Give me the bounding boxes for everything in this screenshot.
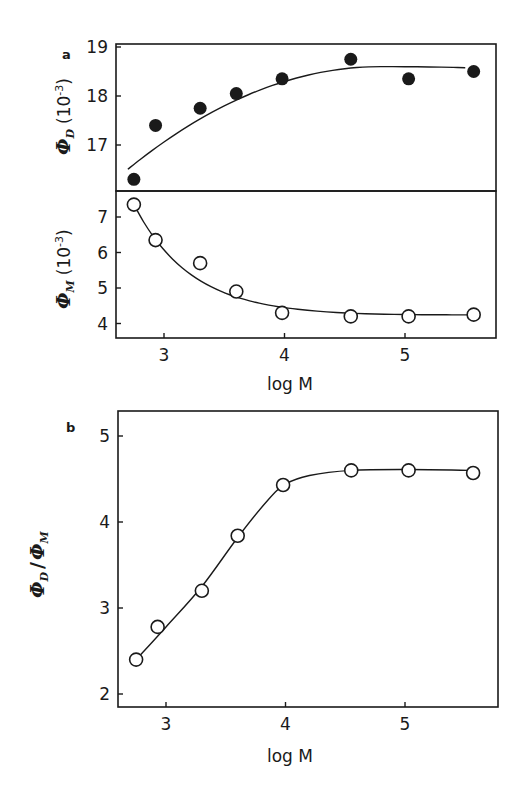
svg-text:ΦM(10-3): ΦM(10-3) xyxy=(52,229,77,309)
panel-label-b: b xyxy=(66,420,75,435)
panel-a-top: 171819 a ΦD(10-3) xyxy=(52,37,496,191)
y-tick-label: 5 xyxy=(97,278,108,298)
y-tick-label: 6 xyxy=(97,243,108,263)
data-point-open xyxy=(467,308,480,321)
x-axis-label: log M xyxy=(267,374,313,394)
plot-frame xyxy=(116,191,496,338)
y-axis-label-phiM: ΦM(10-3) xyxy=(52,229,77,309)
data-point-filled xyxy=(402,72,415,85)
data-point-open xyxy=(344,310,357,323)
y-axis-label-phiD: ΦD(10-3) xyxy=(52,78,77,155)
panel-b: 2345 345 b log M ΦD/ΦM xyxy=(26,411,498,766)
data-point-filled xyxy=(467,65,480,78)
y-tick-label: 17 xyxy=(86,135,108,155)
data-point-open xyxy=(194,257,207,270)
data-point-open xyxy=(149,234,162,247)
x-tick-label: 5 xyxy=(400,345,411,365)
data-point-open xyxy=(151,620,164,633)
y-tick-label: 18 xyxy=(86,86,108,106)
data-point-open xyxy=(276,306,289,319)
data-points xyxy=(130,464,480,666)
data-point-open xyxy=(130,653,143,666)
y-tick-label: 2 xyxy=(99,684,110,704)
y-tick-label: 3 xyxy=(99,598,110,618)
data-point-open xyxy=(277,479,290,492)
x-tick-label: 5 xyxy=(400,714,411,734)
y-tick-label: 7 xyxy=(97,207,108,227)
fit-curve xyxy=(128,67,465,170)
y-axis-ticks: 4567 xyxy=(97,207,121,334)
data-point-open xyxy=(345,464,358,477)
data-point-open xyxy=(127,198,140,211)
data-point-open xyxy=(467,466,480,479)
y-tick-label: 4 xyxy=(99,512,110,532)
data-point-filled xyxy=(127,173,140,186)
svg-text:ΦD/ΦM: ΦD/ΦM xyxy=(26,530,51,598)
fit-curve xyxy=(134,205,471,315)
y-axis-ticks: 2345 xyxy=(99,426,123,704)
plot-frame xyxy=(118,411,498,707)
panel-a-middle: 4567 345 log M ΦM(10-3) xyxy=(52,191,496,394)
plot-frame xyxy=(116,44,496,191)
panel-label-a: a xyxy=(62,47,71,62)
data-point-open xyxy=(402,310,415,323)
x-tick-label: 3 xyxy=(159,345,170,365)
data-points xyxy=(127,53,480,186)
x-axis-label: log M xyxy=(267,746,313,766)
y-axis-label-ratio: ΦD/ΦM xyxy=(26,530,51,598)
data-point-open xyxy=(231,529,244,542)
x-tick-label: 4 xyxy=(279,345,290,365)
figure: 171819 a ΦD(10-3) 4567 345 log M ΦM(10-3… xyxy=(0,0,522,805)
data-point-filled xyxy=(149,119,162,132)
svg-text:ΦD(10-3): ΦD(10-3) xyxy=(52,78,77,155)
data-point-open xyxy=(230,285,243,298)
data-point-open xyxy=(402,464,415,477)
y-tick-label: 4 xyxy=(97,314,108,334)
data-point-filled xyxy=(276,72,289,85)
x-tick-label: 4 xyxy=(280,714,291,734)
data-point-filled xyxy=(230,87,243,100)
y-tick-label: 5 xyxy=(99,426,110,446)
data-point-filled xyxy=(194,102,207,115)
data-points xyxy=(127,198,480,323)
y-tick-label: 19 xyxy=(86,37,108,57)
data-point-filled xyxy=(344,53,357,66)
data-point-open xyxy=(195,584,208,597)
x-tick-label: 3 xyxy=(161,714,172,734)
fit-curve xyxy=(136,470,473,660)
